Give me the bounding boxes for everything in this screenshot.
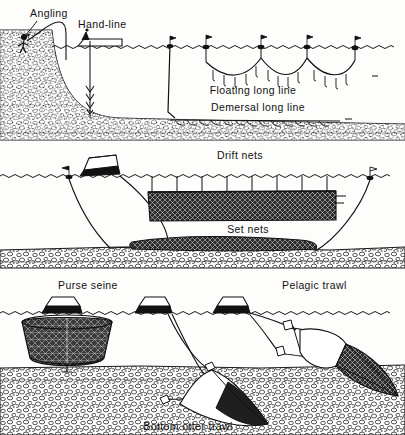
drift-net bbox=[148, 176, 346, 221]
label-demersal-long-line: Demersal long line bbox=[211, 101, 305, 113]
floating-long-line bbox=[203, 35, 378, 89]
pelagic-trawl-vessel bbox=[213, 297, 250, 313]
label-drift-nets: Drift nets bbox=[217, 149, 263, 161]
label-angling: Angling bbox=[30, 7, 68, 19]
longline-buoy bbox=[203, 35, 212, 49]
water-surface-panel2 bbox=[0, 175, 390, 178]
longline-buoy bbox=[258, 35, 267, 49]
panel-lines: Angling Hand-line Floating long line Dem… bbox=[0, 7, 405, 140]
purse-seine-vessel bbox=[42, 297, 82, 313]
label-pelagic-trawl: Pelagic trawl bbox=[282, 279, 347, 291]
label-floating-long-line: Floating long line bbox=[210, 84, 297, 96]
label-bottom-otter-trawl: Bottom otter trawl bbox=[143, 420, 232, 432]
hand-line-gear bbox=[86, 41, 94, 118]
longline-buoy bbox=[304, 35, 313, 49]
bottom-trawl-vessel bbox=[135, 297, 172, 313]
hand-line-boat bbox=[78, 28, 122, 46]
figure-canvas: Angling Hand-line Floating long line Dem… bbox=[0, 0, 405, 435]
label-purse-seine: Purse seine bbox=[58, 279, 118, 291]
fishing-methods-illustration: Angling Hand-line Floating long line Dem… bbox=[0, 0, 405, 435]
purse-seine-net bbox=[22, 315, 112, 372]
drift-net-marker-buoy-left bbox=[62, 166, 72, 179]
set-nets bbox=[110, 237, 317, 251]
panel-nets-static: Drift nets Set nets bbox=[0, 149, 405, 268]
drift-net-rope-left bbox=[69, 179, 110, 248]
panel-trawls: Purse seine Pelagic trawl Bottom otter t… bbox=[0, 279, 405, 435]
drift-net-marker-buoy-right bbox=[367, 167, 377, 180]
label-hand-line: Hand-line bbox=[78, 18, 127, 30]
drift-net-vessel bbox=[80, 155, 120, 176]
label-set-nets: Set nets bbox=[227, 223, 269, 235]
